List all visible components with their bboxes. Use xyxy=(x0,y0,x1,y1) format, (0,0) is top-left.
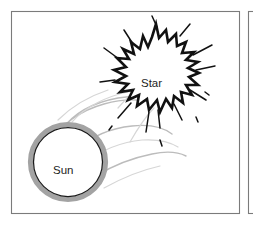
figure-root: Star Sun xyxy=(0,0,253,226)
figure-canvas: Star Sun xyxy=(0,0,253,226)
sun-shape xyxy=(31,125,106,200)
sun-label: Sun xyxy=(53,164,73,176)
star-label: Star xyxy=(141,77,162,89)
sun-disc xyxy=(34,128,103,197)
adjacent-panel-edge xyxy=(249,12,254,214)
